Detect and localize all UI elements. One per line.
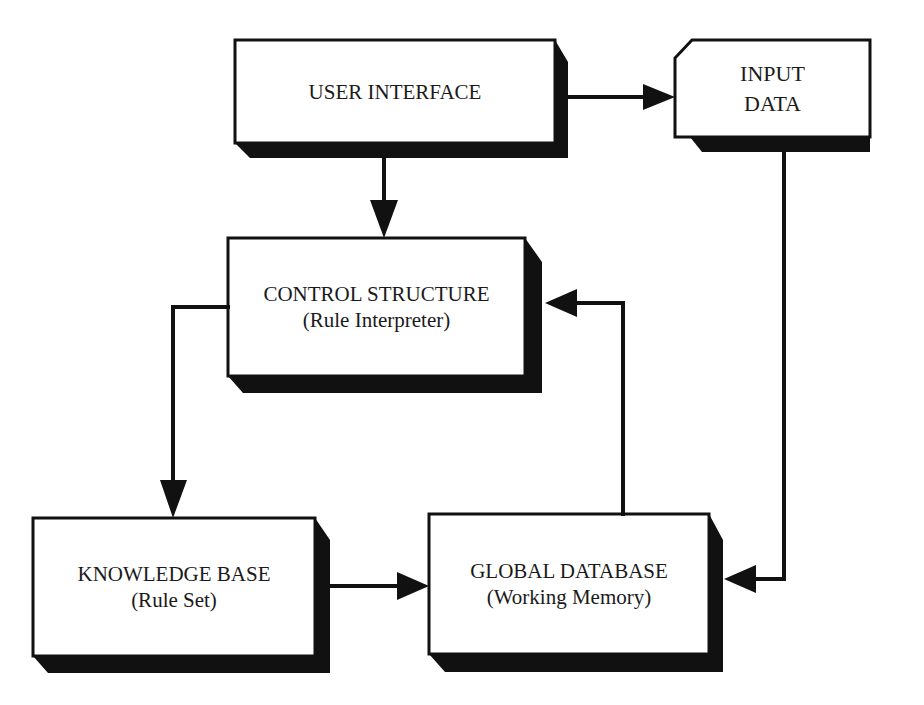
control-structure-title: CONTROL STRUCTURE	[263, 281, 489, 307]
control-structure-label: CONTROL STRUCTURE (Rule Interpreter)	[228, 238, 525, 376]
user-interface-label: USER INTERFACE	[235, 40, 555, 143]
user-interface-title: USER INTERFACE	[309, 79, 482, 105]
input-data-label: INPUT DATA	[675, 40, 870, 137]
arrowhead-left-icon	[545, 289, 577, 317]
input-data-shadow	[690, 137, 870, 152]
arrowhead-right-icon	[397, 572, 429, 600]
global-database-title: GLOBAL DATABASE	[470, 558, 668, 584]
edge-input-to-global	[752, 152, 784, 579]
arrowhead-down-icon	[160, 480, 187, 518]
knowledge-base-subtitle: (Rule Set)	[131, 587, 217, 613]
global-database-label: GLOBAL DATABASE (Working Memory)	[429, 514, 709, 654]
input-data-title: INPUT	[740, 59, 805, 89]
arrowhead-right-icon	[643, 84, 675, 110]
edge-control-to-knowledge	[173, 307, 228, 482]
knowledge-base-label: KNOWLEDGE BASE (Rule Set)	[33, 518, 315, 656]
global-database-subtitle: (Working Memory)	[487, 584, 652, 610]
edge-global-to-control	[575, 303, 623, 514]
input-data-subtitle: DATA	[744, 89, 801, 119]
arrowhead-down-icon	[370, 200, 398, 238]
control-structure-subtitle: (Rule Interpreter)	[303, 307, 451, 333]
knowledge-base-title: KNOWLEDGE BASE	[77, 561, 270, 587]
arrowhead-left-icon	[724, 565, 756, 593]
